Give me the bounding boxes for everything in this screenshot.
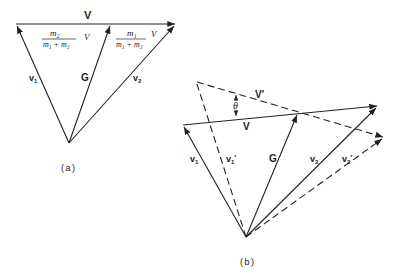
vector-v1prime-b — [197, 84, 246, 237]
frac2-numerator: m₁ — [127, 28, 137, 38]
frac2-denominator: m₁ + m₂ — [116, 40, 143, 49]
vector-G-b — [246, 115, 297, 237]
label-v1-b: v1 — [190, 154, 199, 165]
vector-V-b — [183, 106, 377, 125]
label-v2prime-b: v2′ — [342, 153, 352, 165]
caption-a: (a) — [61, 163, 77, 173]
label-v1prime-b: v1′ — [226, 153, 236, 165]
vector-G-a — [69, 26, 110, 143]
label-V-a: V — [84, 9, 92, 21]
label-v2-a: v2 — [133, 73, 142, 84]
frac1-variable: V — [84, 32, 91, 42]
vector-v1-b — [184, 127, 246, 237]
label-v2-b: v2 — [310, 154, 319, 165]
vector-diagram: V m₂ m₁ + m₂ V m₁ m₁ + m₂ V v1 G v2 (a) — [0, 0, 398, 277]
label-Vprime-b: V′ — [255, 89, 265, 100]
figure-b: θ V′ V v1 v1′ G v2 v2′ (b) — [183, 82, 383, 267]
label-V-b: V — [243, 121, 250, 132]
label-G-b: G — [269, 153, 277, 164]
caption-b: (b) — [240, 257, 256, 267]
frac2-variable: V — [151, 29, 158, 39]
label-theta: θ — [233, 100, 238, 111]
figure-a: V m₂ m₁ + m₂ V m₁ m₁ + m₂ V v1 G v2 (a) — [16, 9, 175, 173]
label-G-a: G — [81, 72, 89, 83]
vector-v2-b — [246, 108, 376, 237]
frac1-denominator: m₁ + m₂ — [43, 40, 70, 49]
label-v1-a: v1 — [29, 73, 38, 84]
frac1-numerator: m₂ — [50, 28, 60, 38]
